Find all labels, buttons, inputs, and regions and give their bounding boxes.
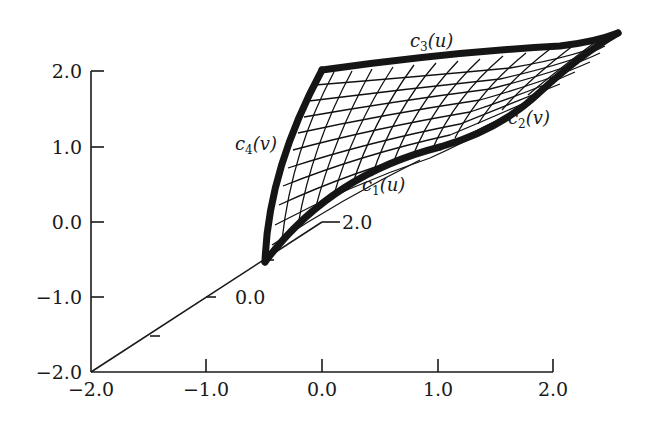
label-c2: c2(v) [508, 107, 550, 131]
horizontal-tick-label: 2.0 [538, 378, 568, 400]
vertical-tick-label: −1.0 [36, 286, 82, 308]
horizontal-tick-label: 0.0 [307, 378, 337, 400]
vertical-tick-label: 0.0 [52, 211, 82, 233]
vertical-tick-label: 2.0 [52, 60, 82, 82]
label-c3: c3(u) [410, 30, 453, 54]
surface-patch-figure: 2.0 1.0 0.0 −1.0 −2.0 −2.0 −1.0 0.0 1.0 … [0, 0, 654, 432]
label-c1: c1(u) [362, 174, 405, 198]
horizontal-tick-label: 1.0 [423, 378, 453, 400]
horizontal-axis: −2.0 −1.0 0.0 1.0 2.0 [68, 359, 568, 400]
vertical-axis: 2.0 1.0 0.0 −1.0 −2.0 [36, 60, 104, 383]
horizontal-tick-label: −1.0 [183, 378, 229, 400]
horizontal-tick-label: −2.0 [68, 378, 114, 400]
label-c4: c4(v) [235, 133, 277, 157]
depth-tick-label: 2.0 [342, 211, 372, 233]
depth-tick-label: 0.0 [235, 286, 265, 308]
vertical-tick-label: 1.0 [52, 136, 82, 158]
depth-axis: 0.0 2.0 [91, 211, 372, 372]
